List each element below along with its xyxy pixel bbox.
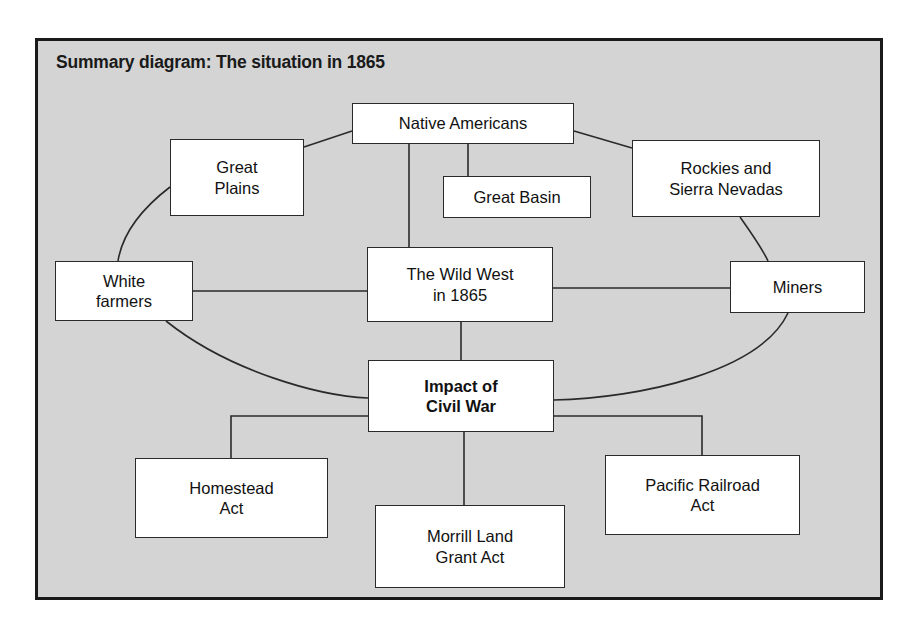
node-great-plains[interactable]: Great Plains — [170, 139, 304, 216]
node-label: Great Basin — [473, 187, 560, 207]
node-homestead-act[interactable]: Homestead Act — [135, 458, 328, 538]
node-label: Impact of Civil War — [424, 376, 497, 416]
node-label: Native Americans — [399, 113, 527, 133]
node-impact-of-civil-war[interactable]: Impact of Civil War — [368, 360, 554, 432]
node-miners[interactable]: Miners — [730, 261, 865, 313]
diagram-title: Summary diagram: The situation in 1865 — [56, 52, 385, 73]
node-morrill-land-grant-act[interactable]: Morrill Land Grant Act — [375, 505, 565, 588]
node-label: White farmers — [96, 271, 152, 311]
node-label: Pacific Railroad Act — [645, 475, 760, 515]
node-label: Homestead Act — [189, 478, 273, 518]
node-white-farmers[interactable]: White farmers — [55, 261, 193, 321]
diagram-page: Summary diagram: The situation in 1865 — [0, 0, 918, 618]
node-pacific-railroad-act[interactable]: Pacific Railroad Act — [605, 455, 800, 535]
node-great-basin[interactable]: Great Basin — [443, 176, 591, 218]
node-label: Great Plains — [215, 157, 260, 197]
node-label: Miners — [773, 277, 823, 297]
node-wild-west-1865[interactable]: The Wild West in 1865 — [367, 247, 553, 322]
node-rockies-sierra-nevadas[interactable]: Rockies and Sierra Nevadas — [632, 140, 820, 217]
node-label: Morrill Land Grant Act — [427, 526, 513, 566]
node-label: Rockies and Sierra Nevadas — [669, 158, 783, 198]
node-label: The Wild West in 1865 — [407, 264, 514, 304]
node-native-americans[interactable]: Native Americans — [352, 103, 574, 144]
